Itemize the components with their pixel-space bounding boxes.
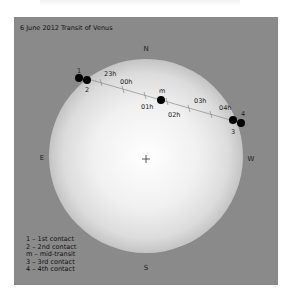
venus-mid-transit (157, 96, 165, 104)
cropped-header-text (40, 0, 240, 6)
hour-label: 03h (194, 97, 206, 105)
compass-south: S (144, 264, 149, 272)
contact-label: m (159, 87, 165, 95)
venus-contact-1 (75, 74, 83, 82)
legend: 1 – 1st contact 2 – 2nd contact m – mid-… (26, 236, 76, 274)
hour-label: 23h (104, 70, 116, 78)
contact-label: 4 (241, 110, 245, 118)
legend-item: 4 – 4th contact (26, 266, 76, 274)
contact-label: 2 (85, 86, 89, 94)
compass-north: N (143, 45, 148, 53)
venus-contact-4 (237, 119, 245, 127)
hour-label: 04h (219, 104, 231, 112)
compass-east: E (40, 154, 44, 162)
venus-contact-2 (83, 76, 91, 84)
venus-contact-3 (229, 116, 237, 124)
contact-label: 1 (77, 67, 81, 75)
transit-diagram-panel: 6 June 2012 Transit of Venus 23h 00h 0 (14, 17, 278, 285)
contact-label: 3 (231, 128, 235, 136)
hour-label: 01h (141, 103, 153, 111)
hour-label: 00h (120, 78, 132, 86)
compass-west: W (248, 155, 255, 163)
hour-label: 02h (168, 111, 180, 119)
